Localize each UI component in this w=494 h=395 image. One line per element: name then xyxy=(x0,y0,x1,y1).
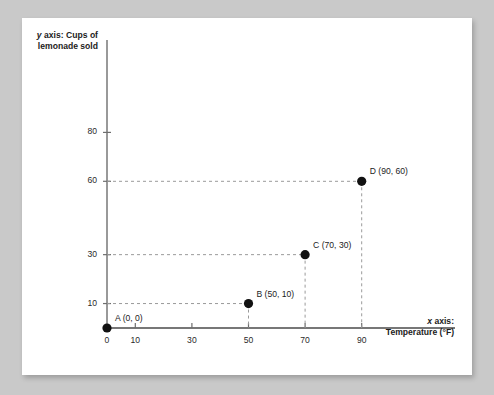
x-axis-label-line1-rest: axis: xyxy=(432,316,454,326)
data-point-b xyxy=(244,299,253,308)
y-axis-label-line1-rest: axis: Cups of xyxy=(42,30,98,40)
x-axis-tick-label: 50 xyxy=(236,335,262,345)
y-axis-label-line2: lemonade sold xyxy=(38,41,98,51)
y-axis-tick-label: 60 xyxy=(71,175,97,185)
chart-card: y axis: Cups of lemonade sold x axis: Te… xyxy=(22,18,472,375)
data-point-label-d: D (90, 60) xyxy=(370,166,408,176)
y-axis-tick-label: 10 xyxy=(71,298,97,308)
y-axis-tick-label: 80 xyxy=(71,126,97,136)
data-point-c xyxy=(301,250,310,259)
data-point-label-a: A (0, 0) xyxy=(115,313,143,323)
x-axis-label: x axis: Temperature (°F) xyxy=(322,316,454,338)
x-axis-tick-label: 70 xyxy=(292,335,318,345)
x-axis-tick-label: 90 xyxy=(349,335,375,345)
x-axis-tick-label: 10 xyxy=(122,335,148,345)
x-axis-tick-label: 30 xyxy=(179,335,205,345)
scatter-plot: y axis: Cups of lemonade sold x axis: Te… xyxy=(22,18,472,375)
x-axis-label-line2: Temperature (°F) xyxy=(386,327,454,337)
x-axis-tick-label: 0 xyxy=(94,335,120,345)
data-point-label-b: B (50, 10) xyxy=(257,289,295,299)
data-point-label-c: C (70, 30) xyxy=(313,240,351,250)
data-point-d xyxy=(357,177,366,186)
y-axis-label: y axis: Cups of lemonade sold xyxy=(22,30,98,52)
data-point-a xyxy=(102,323,111,332)
y-axis-tick-label: 30 xyxy=(71,249,97,259)
